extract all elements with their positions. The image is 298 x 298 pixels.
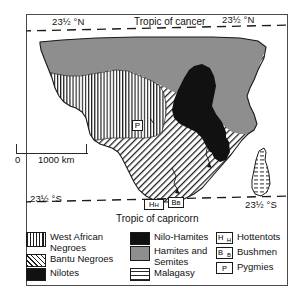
- legend-label-nilo-hamites: Nilo-Hamites: [154, 232, 208, 243]
- swatch-solid-black-2: [130, 232, 150, 245]
- hottentots-marker: HH: [144, 199, 164, 210]
- legend-item-hottentots: HH Hottentots: [216, 232, 288, 244]
- legend-label-nilotes: Nilotes: [50, 268, 79, 279]
- lat-label-south-right: 23½ °S: [245, 199, 277, 210]
- pygmies-marker-symbol: P: [135, 122, 140, 130]
- map-legend: West African Negroes Bantu Negroes Nilot…: [26, 232, 288, 286]
- scale-bar: 0 1000 km: [16, 142, 94, 164]
- scale-distance-label: 1000 km: [38, 154, 74, 165]
- tropic-of-cancer-label: Tropic of cancer: [134, 16, 205, 27]
- legend-item-nilo-hamites: Nilo-Hamites: [130, 232, 216, 245]
- legend-column-three: HH Hottentots BB Bushmen P Pygmies: [216, 232, 288, 286]
- tropic-of-capricorn-label: Tropic of capricorn: [116, 213, 198, 224]
- legend-item-pygmies: P Pygmies: [216, 262, 288, 274]
- legend-item-malagasy: Malagasy: [130, 268, 216, 281]
- legend-item-bantu-negroes: Bantu Negroes: [26, 254, 130, 267]
- scale-zero-label: 0: [15, 154, 20, 165]
- region-malagasy: [246, 144, 278, 202]
- map-figure: 23½ °N Tropic of cancer 23½ °N 23½ °S Tr…: [0, 0, 298, 298]
- legend-label-hottentots: Hottentots: [237, 232, 280, 243]
- scale-tick-start: [16, 144, 17, 154]
- africa-map-svg: [26, 14, 288, 226]
- swatch-vertical-lines: [26, 232, 46, 247]
- legend-label-malagasy: Malagasy: [154, 268, 195, 279]
- symbol-box-hottentots: HH: [216, 232, 233, 244]
- swatch-solid-black: [26, 268, 46, 281]
- legend-item-nilotes: Nilotes: [26, 268, 130, 281]
- legend-label-pygmies: Pygmies: [237, 262, 273, 273]
- lat-label-south-left: 23½ °S: [30, 193, 62, 204]
- swatch-solid-grey: [130, 246, 150, 261]
- swatch-diagonal-hatch: [26, 254, 46, 267]
- region-west-african-negroes: [32, 70, 166, 140]
- legend-item-west-african-negroes: West African Negroes: [26, 232, 130, 253]
- map-panel: [26, 14, 288, 226]
- scale-tick-end: [86, 144, 87, 154]
- legend-item-bushmen: BB Bushmen: [216, 247, 288, 259]
- bushmen-marker: BB: [168, 197, 184, 208]
- legend-column-two: Nilo-Hamites Hamites and Semites Malagas…: [130, 232, 216, 286]
- pygmies-marker: P: [132, 120, 143, 131]
- legend-label-west-african-negroes: West African Negroes: [50, 232, 130, 253]
- legend-column-one: West African Negroes Bantu Negroes Nilot…: [26, 232, 130, 286]
- lat-label-north-right: 23½ °N: [222, 14, 254, 25]
- symbol-box-pygmies: P: [216, 262, 233, 274]
- symbol-box-bushmen: BB: [216, 247, 233, 259]
- legend-label-bushmen: Bushmen: [237, 247, 277, 258]
- legend-label-hamites-and-semites: Hamites and Semites: [154, 246, 216, 267]
- legend-label-bantu-negroes: Bantu Negroes: [50, 254, 113, 265]
- legend-item-hamites-and-semites: Hamites and Semites: [130, 246, 216, 267]
- lat-label-north-left: 23½ °N: [52, 16, 84, 27]
- swatch-horizontal-lines: [130, 268, 150, 281]
